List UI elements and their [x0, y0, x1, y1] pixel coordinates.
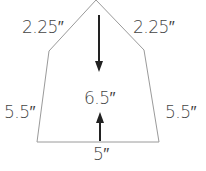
side-right-label: 5.5″	[165, 102, 197, 122]
height-arrow-down	[95, 15, 103, 72]
height-label: 6.5″	[84, 88, 116, 108]
house-diagram: 2.25″ 2.25″ 6.5″ 5.5″ 5.5″ 5″	[0, 0, 206, 171]
height-arrow-up	[96, 112, 104, 141]
side-left-label: 5.5″	[4, 102, 36, 122]
roof-left-label: 2.25″	[22, 17, 64, 37]
roof-right-label: 2.25″	[133, 17, 175, 37]
base-label: 5″	[93, 144, 109, 164]
